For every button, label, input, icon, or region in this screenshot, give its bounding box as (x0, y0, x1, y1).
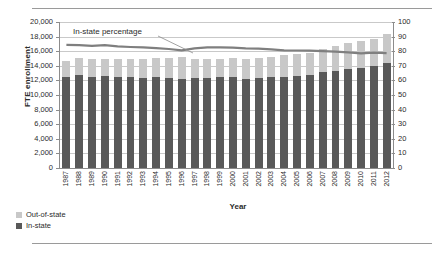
legend-swatch (16, 223, 22, 229)
x-tick: 1987 (59, 170, 72, 202)
legend-label: Out-of-state (26, 210, 66, 219)
y-tick-label-right: 90 (398, 33, 406, 41)
x-tick: 2000 (226, 170, 239, 202)
y-tick-label-left: 12,000 (30, 77, 53, 85)
x-tick-label: 2008 (331, 171, 338, 187)
y-tick-label-left: 20,000 (30, 18, 53, 26)
x-tick: 2004 (277, 170, 290, 202)
x-tick: 2011 (367, 170, 380, 202)
y-tick-mark-right (392, 168, 395, 169)
x-tick-label: 1994 (152, 171, 159, 187)
x-tick: 2009 (341, 170, 354, 202)
x-tick-label: 1998 (203, 171, 210, 187)
y-tick-label-right: 100 (398, 18, 411, 26)
x-tick: 2012 (379, 170, 392, 202)
y-tick-label-right: 40 (398, 106, 406, 114)
y-tick-mark-left (56, 37, 59, 38)
y-tick-mark-right (392, 22, 395, 23)
x-tick-label: 1990 (100, 171, 107, 187)
x-tick-label: 1992 (126, 171, 133, 187)
bottom-divider-rule (32, 243, 432, 244)
x-tick: 2008 (328, 170, 341, 202)
x-tick-label: 2000 (228, 171, 235, 187)
y-tick-mark-right (392, 124, 395, 125)
x-tick: 2003 (264, 170, 277, 202)
y-tick-mark-left (56, 168, 59, 169)
y-tick-label-right: 70 (398, 62, 406, 70)
x-tick: 1998 (200, 170, 213, 202)
y-tick-label-left: 6,000 (34, 120, 53, 128)
x-tick: 1989 (85, 170, 98, 202)
y-tick-label-right: 60 (398, 77, 406, 85)
x-tick-label: 2005 (293, 171, 300, 187)
x-tick: 2002 (251, 170, 264, 202)
x-tick: 1994 (149, 170, 162, 202)
y-tick-mark-left (56, 51, 59, 52)
y-tick-mark-left (56, 80, 59, 81)
x-tick: 1999 (213, 170, 226, 202)
x-tick-label: 1995 (164, 171, 171, 187)
y-tick-label-right: 50 (398, 91, 406, 99)
y-tick-label-right: 10 (398, 150, 406, 158)
y-tick-label-left: 10,000 (30, 91, 53, 99)
x-tick-label: 1999 (216, 171, 223, 187)
x-tick: 1992 (123, 170, 136, 202)
x-tick: 2006 (302, 170, 315, 202)
x-tick-label: 1993 (139, 171, 146, 187)
y-axis-ticks-left: 02,0004,0006,0008,00010,00012,00014,0001… (14, 22, 56, 168)
x-tick: 2001 (238, 170, 251, 202)
y-tick-mark-right (392, 66, 395, 67)
y-tick-label-left: 4,000 (34, 135, 53, 143)
annotation-in-state-percentage: In-state percentage (73, 27, 142, 36)
x-tick-label: 1989 (88, 171, 95, 187)
x-tick: 1990 (97, 170, 110, 202)
y-tick-mark-left (56, 95, 59, 96)
legend-item[interactable]: In-state (16, 221, 66, 230)
y-tick-mark-left (56, 22, 59, 23)
x-axis-title: Year (0, 202, 446, 211)
y-tick-label-left: 8,000 (34, 106, 53, 114)
x-tick: 1996 (174, 170, 187, 202)
y-tick-mark-right (392, 51, 395, 52)
x-tick-label: 2012 (382, 171, 389, 187)
y-tick-mark-right (392, 153, 395, 154)
y-tick-mark-left (56, 110, 59, 111)
y-tick-label-right: 80 (398, 47, 406, 55)
x-tick-label: 1996 (177, 171, 184, 187)
y-tick-mark-right (392, 139, 395, 140)
legend-item[interactable]: Out-of-state (16, 210, 66, 219)
y-tick-label-right: 0 (398, 164, 402, 172)
y-tick-mark-right (392, 95, 395, 96)
chart-legend: Out-of-stateIn-state (16, 210, 66, 232)
y-tick-mark-right (392, 80, 395, 81)
x-tick-label: 2003 (267, 171, 274, 187)
y-tick-mark-right (392, 110, 395, 111)
x-tick: 1988 (72, 170, 85, 202)
x-tick: 1993 (136, 170, 149, 202)
plot-area (59, 22, 394, 169)
top-divider-rule (32, 8, 432, 9)
y-tick-label-left: 16,000 (30, 47, 53, 55)
y-tick-label-right: 30 (398, 120, 406, 128)
legend-label: In-state (26, 221, 51, 230)
y-tick-label-right: 20 (398, 135, 406, 143)
x-tick-label: 2002 (254, 171, 261, 187)
x-tick-label: 2004 (280, 171, 287, 187)
x-tick: 1997 (187, 170, 200, 202)
x-tick-label: 2009 (344, 171, 351, 187)
x-tick: 2010 (354, 170, 367, 202)
chart-figure: FTE enrollment Percentage of in-state FT… (0, 0, 446, 253)
x-tick: 1991 (110, 170, 123, 202)
x-tick-label: 2007 (318, 171, 325, 187)
x-tick-label: 1987 (62, 171, 69, 187)
y-tick-mark-left (56, 66, 59, 67)
x-tick: 2005 (290, 170, 303, 202)
legend-swatch (16, 212, 22, 218)
x-tick-label: 1991 (113, 171, 120, 187)
x-tick: 1995 (162, 170, 175, 202)
x-tick-label: 2010 (357, 171, 364, 187)
x-tick-label: 2006 (305, 171, 312, 187)
y-tick-label-left: 18,000 (30, 33, 53, 41)
y-tick-mark-left (56, 124, 59, 125)
x-tick-label: 1988 (75, 171, 82, 187)
